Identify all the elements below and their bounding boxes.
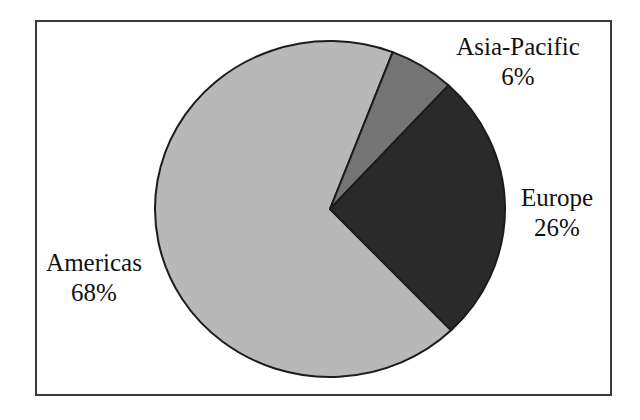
slice-label-asia-pacific-value: 6% <box>418 62 618 92</box>
slice-label-europe: Europe 26% <box>487 183 627 242</box>
slice-label-americas-value: 68% <box>14 278 174 308</box>
slice-label-asia-pacific-name: Asia-Pacific <box>418 32 618 62</box>
slice-label-americas: Americas 68% <box>14 248 174 307</box>
pie-chart-figure: Asia-Pacific 6% Europe 26% Americas 68% <box>0 0 640 420</box>
slice-label-europe-name: Europe <box>487 183 627 213</box>
slice-label-asia-pacific: Asia-Pacific 6% <box>418 32 618 91</box>
slice-label-americas-name: Americas <box>14 248 174 278</box>
slice-label-europe-value: 26% <box>487 213 627 243</box>
